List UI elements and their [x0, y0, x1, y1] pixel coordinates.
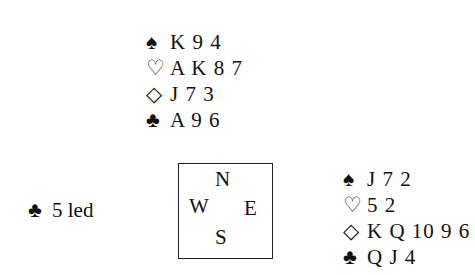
opening-lead: ♣5 led [28, 198, 93, 223]
direction-south: S [215, 225, 227, 250]
north-spades: ♠K 9 4 [146, 29, 243, 55]
north-hearts: ♡A K 8 7 [146, 55, 243, 81]
heart-icon: ♡ [343, 192, 367, 218]
diamond-icon: ◇ [146, 81, 170, 107]
diamond-icon: ◇ [343, 218, 367, 244]
east-hand: ♠J 7 2 ♡5 2 ◇K Q 10 9 6 ♣Q J 4 [343, 166, 470, 270]
spade-icon: ♠ [343, 166, 367, 192]
club-icon: ♣ [28, 198, 52, 223]
direction-west: W [189, 194, 209, 219]
direction-east: E [244, 196, 257, 221]
north-hand: ♠K 9 4 ♡A K 8 7 ◇J 7 3 ♣A 9 6 [146, 29, 243, 133]
east-diamonds: ◇K Q 10 9 6 [343, 218, 470, 244]
east-hearts: ♡5 2 [343, 192, 470, 218]
east-spades: ♠J 7 2 [343, 166, 470, 192]
compass-box: N W E S [178, 163, 273, 259]
direction-north: N [215, 167, 230, 192]
heart-icon: ♡ [146, 55, 170, 81]
club-icon: ♣ [146, 107, 170, 133]
spade-icon: ♠ [146, 29, 170, 55]
club-icon: ♣ [343, 244, 367, 270]
north-diamonds: ◇J 7 3 [146, 81, 243, 107]
east-clubs: ♣Q J 4 [343, 244, 470, 270]
north-clubs: ♣A 9 6 [146, 107, 243, 133]
